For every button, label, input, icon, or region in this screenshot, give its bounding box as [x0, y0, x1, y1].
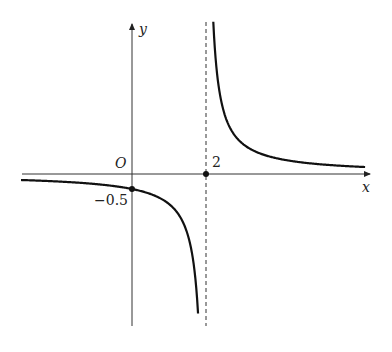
- graph-canvas: y x O 2 −0.5: [0, 0, 392, 352]
- y-tick-label-neg-half: −0.5: [94, 192, 128, 208]
- x-axis-label: x: [362, 179, 370, 195]
- origin-label: O: [115, 155, 127, 171]
- x-tick-label-2: 2: [212, 154, 221, 170]
- point-y-intercept: [129, 186, 135, 192]
- curve-right-branch: [213, 22, 365, 167]
- point-x-2: [203, 171, 209, 177]
- y-axis-label: y: [138, 21, 148, 37]
